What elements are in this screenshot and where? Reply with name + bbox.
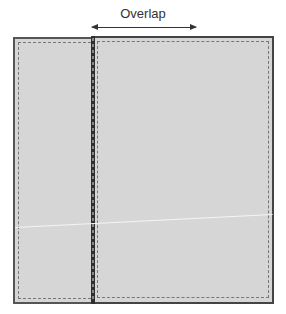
seam-stitch-line (92, 38, 94, 302)
right-stitch-line (97, 41, 269, 298)
overlap-label: Overlap (90, 6, 196, 21)
double-arrow-icon (92, 27, 196, 28)
left-stitch-line (18, 42, 91, 299)
